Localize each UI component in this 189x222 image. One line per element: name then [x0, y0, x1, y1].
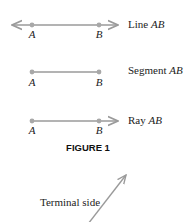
- point-b-label: B: [96, 28, 103, 40]
- point-b-label: B: [96, 124, 103, 136]
- segment-label-name: AB: [168, 64, 183, 76]
- ray-ab-label: Ray AB: [128, 114, 162, 126]
- geometry-figure: A B Line AB A B Segment AB A B Ray AB FI…: [0, 0, 189, 222]
- point-a-dot: [30, 119, 35, 124]
- line-label-name: AB: [150, 18, 165, 30]
- ray-label-prefix: Ray: [128, 114, 148, 126]
- line-label-prefix: Line: [128, 18, 151, 30]
- point-b-dot: [97, 23, 102, 28]
- ray-ab-figure: A B Ray AB: [28, 114, 163, 136]
- point-a-label: A: [28, 28, 36, 40]
- ray-label-name: AB: [147, 114, 162, 126]
- point-b-dot: [97, 70, 102, 75]
- point-b-label: B: [96, 76, 103, 88]
- segment-ab-figure: A B Segment AB: [28, 64, 183, 88]
- line-ab-figure: A B Line AB: [12, 18, 165, 40]
- terminal-side-label: Terminal side: [40, 196, 100, 208]
- angle-figure: Terminal side: [40, 175, 126, 222]
- point-a-label: A: [28, 124, 36, 136]
- segment-ab-label: Segment AB: [128, 64, 183, 76]
- point-b-dot: [97, 119, 102, 124]
- point-a-dot: [30, 70, 35, 75]
- segment-label-prefix: Segment: [128, 64, 169, 76]
- point-a-dot: [30, 23, 35, 28]
- line-ab-label: Line AB: [128, 18, 165, 30]
- figure-caption: FIGURE 1: [66, 142, 111, 153]
- point-a-label: A: [28, 76, 36, 88]
